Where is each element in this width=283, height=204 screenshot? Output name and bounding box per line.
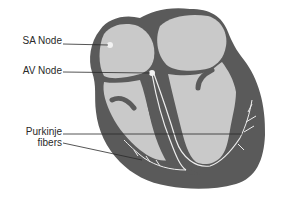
left-atrium <box>157 15 226 71</box>
purkinje-label-line2: fibers <box>38 138 62 148</box>
sa-node-label: SA Node <box>23 36 62 46</box>
valve-flap-mid <box>150 78 152 98</box>
purkinje-label-line1: Purkinje <box>26 127 62 137</box>
av-node-label: AV Node <box>23 66 62 76</box>
heart-diagram <box>0 0 283 204</box>
right-atrium <box>100 24 155 78</box>
